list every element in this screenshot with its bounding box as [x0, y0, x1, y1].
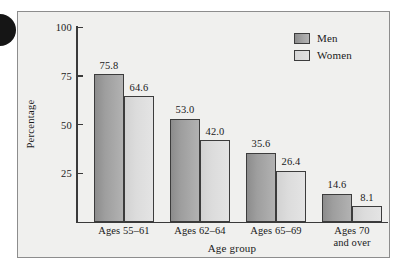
value-label-women-ages-65-69: 26.4 [276, 156, 306, 167]
legend-swatch-men-icon [294, 33, 310, 44]
legend-item-women[interactable]: Women [294, 49, 352, 61]
legend-item-men[interactable]: Men [294, 32, 352, 44]
legend-label-women: Women [317, 49, 352, 61]
value-label-women-ages-70-and-over: 8.1 [352, 192, 382, 203]
value-label-men-ages-62-64: 53.0 [170, 104, 200, 115]
value-label-men-ages-65-69: 35.6 [246, 138, 276, 149]
category-label-ages-70-and-over: Ages 70 and over [307, 225, 397, 248]
value-label-men-ages-70-and-over: 14.6 [322, 179, 352, 190]
legend-label-men: Men [317, 32, 338, 44]
bar-men-ages-62-64[interactable] [170, 119, 200, 222]
category-label-ages-70-line1: Ages 70 [307, 225, 397, 237]
bar-men-ages-70-and-over[interactable] [322, 194, 352, 223]
bar-men-ages-65-69[interactable] [246, 153, 276, 222]
bar-women-ages-65-69[interactable] [276, 171, 306, 223]
value-label-women-ages-62-64: 42.0 [200, 126, 230, 137]
category-label-ages-70-line2: and over [307, 237, 397, 249]
chart-legend: Men Women [294, 32, 352, 66]
bar-women-ages-55-61[interactable] [124, 96, 154, 222]
bar-women-ages-62-64[interactable] [200, 140, 230, 222]
page-edge-artifact [0, 14, 16, 46]
value-label-men-ages-55-61: 75.8 [94, 60, 124, 71]
plot-area: 100 75 50 25 Percentage Age group [18, 12, 389, 257]
chart-figure-frame: 100 75 50 25 Percentage Age group [17, 11, 390, 258]
bar-men-ages-55-61[interactable] [94, 74, 124, 222]
bar-women-ages-70-and-over[interactable] [352, 206, 382, 222]
legend-swatch-women-icon [294, 50, 310, 61]
value-label-women-ages-55-61: 64.6 [124, 82, 154, 93]
